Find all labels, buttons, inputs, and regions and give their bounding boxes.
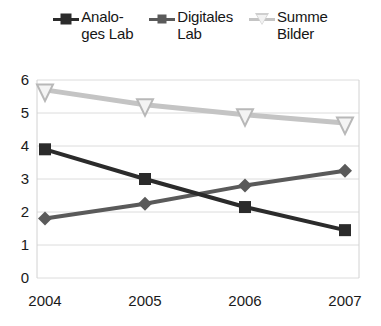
y-axis-tick-label: 3 (21, 170, 29, 187)
data-point-diamond (138, 197, 152, 211)
y-axis-tick-label: 5 (21, 104, 29, 121)
legend-item-digitales-lab[interactable]: Digitales Lab (149, 8, 233, 42)
legend-label-analoges-lab: Analo- ges Lab (81, 8, 133, 42)
y-axis-tick-label: 2 (21, 203, 29, 220)
x-axis-tick-label: 2007 (328, 292, 361, 309)
chart-legend: Analo- ges Lab Digitales Lab Summe Bilde… (0, 8, 381, 42)
data-point-square (239, 201, 251, 213)
y-axis-tick-label: 1 (21, 236, 29, 253)
y-axis-tick-label: 0 (21, 269, 29, 286)
series-line (45, 149, 345, 230)
data-point-triangle (337, 117, 353, 133)
plot-svg: 65432102004200520062007 (0, 66, 381, 326)
series-line (45, 90, 345, 123)
data-point-square (139, 173, 151, 185)
x-axis-tick-label: 2004 (28, 292, 61, 309)
data-point-diamond (38, 212, 52, 226)
data-point-square (339, 224, 351, 236)
y-axis-tick-label: 6 (21, 71, 29, 88)
line-chart: Analo- ges Lab Digitales Lab Summe Bilde… (0, 0, 381, 326)
y-axis-tick-label: 4 (21, 137, 29, 154)
data-point-square (39, 143, 51, 155)
square-marker-icon (53, 9, 79, 29)
plot-area: 65432102004200520062007 (0, 66, 381, 326)
data-point-diamond (238, 179, 252, 193)
x-axis-tick-label: 2005 (128, 292, 161, 309)
data-point-diamond (338, 164, 352, 178)
legend-item-analoges-lab[interactable]: Analo- ges Lab (53, 8, 133, 42)
diamond-marker-icon (149, 9, 175, 29)
triangle-marker-icon (249, 9, 275, 29)
legend-item-summe-bilder[interactable]: Summe Bilder (249, 8, 328, 42)
legend-label-digitales-lab: Digitales Lab (177, 8, 233, 42)
legend-label-summe-bilder: Summe Bilder (277, 8, 328, 42)
x-axis-tick-label: 2006 (228, 292, 261, 309)
